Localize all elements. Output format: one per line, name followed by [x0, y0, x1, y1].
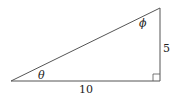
right-angle-marker [153, 74, 160, 81]
height-length-label: 5 [163, 42, 170, 55]
angle-phi-label: ϕ [139, 17, 147, 30]
base-length-label: 10 [79, 83, 93, 96]
triangle [11, 8, 160, 81]
angle-theta-label: θ [38, 69, 45, 82]
right-triangle-diagram: θ ϕ 10 5 [0, 0, 173, 96]
